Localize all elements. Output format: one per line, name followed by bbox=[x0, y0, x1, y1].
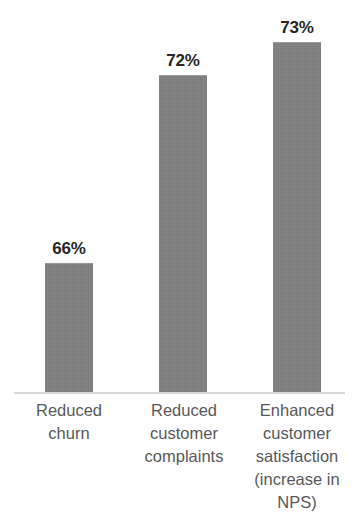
bar-value-label: 73% bbox=[247, 18, 347, 38]
category-label-reduced-churn: Reduced churn bbox=[14, 399, 124, 445]
category-label-enhanced-customer-satisfaction: Enhanced customer satisfaction (increase… bbox=[240, 399, 354, 514]
bar-value-label: 66% bbox=[19, 239, 119, 259]
bar-value-label: 72% bbox=[133, 51, 233, 71]
bar-reduced-customer-complaints[interactable] bbox=[159, 75, 207, 393]
bar-group-reduced-churn: 66% bbox=[45, 0, 93, 393]
bar-group-enhanced-customer-satisfaction: 73% bbox=[273, 0, 321, 393]
bar-top-edge bbox=[159, 75, 207, 76]
bar-enhanced-customer-satisfaction[interactable] bbox=[273, 42, 321, 393]
bar-chart: 66% 72% 73% Reduced churn Reduced custom… bbox=[0, 0, 359, 526]
bar-top-edge bbox=[45, 263, 93, 264]
bar-group-reduced-customer-complaints: 72% bbox=[159, 0, 207, 393]
category-axis-labels: Reduced churn Reduced customer complaint… bbox=[0, 399, 359, 526]
x-axis-baseline bbox=[14, 392, 345, 394]
category-label-reduced-customer-complaints: Reduced customer complaints bbox=[128, 399, 240, 468]
plot-area: 66% 72% 73% bbox=[0, 0, 359, 393]
bar-reduced-churn[interactable] bbox=[45, 263, 93, 393]
bar-top-edge bbox=[273, 42, 321, 43]
